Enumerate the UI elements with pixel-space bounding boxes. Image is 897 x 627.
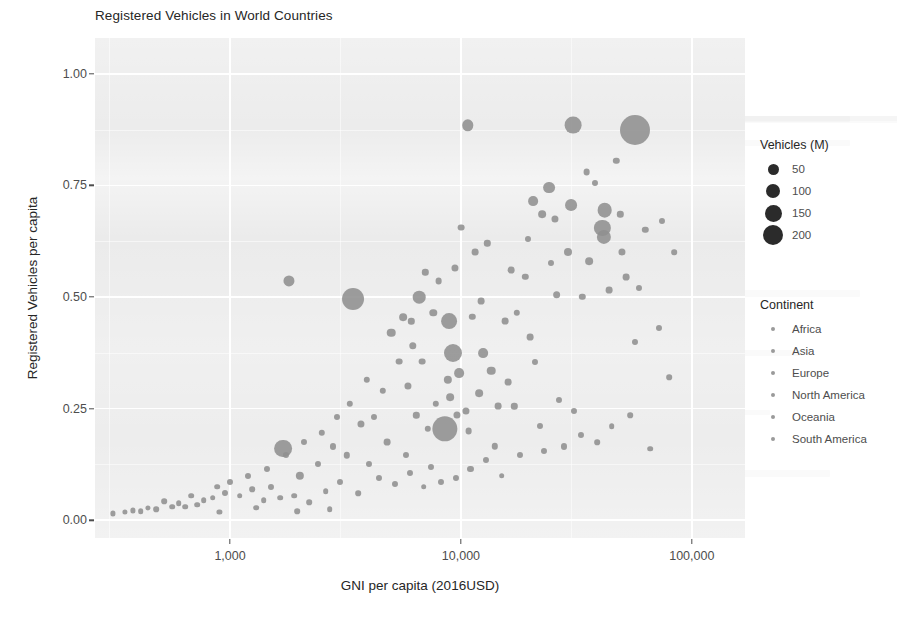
size-legend-dot (760, 184, 786, 198)
scatter-point (583, 169, 590, 176)
scatter-point (301, 439, 307, 445)
continent-legend-dot (760, 371, 786, 375)
scatter-point (306, 499, 312, 505)
x-tick-label: 1,000 (214, 549, 245, 563)
scatter-point (176, 500, 182, 506)
scatter-point (430, 309, 437, 316)
scatter-point (462, 407, 469, 414)
scatter-point (130, 508, 135, 513)
scatter-point (295, 471, 303, 479)
scatter-point (444, 375, 452, 383)
scatter-point (421, 484, 427, 490)
scatter-point (632, 339, 638, 345)
scatter-point (399, 313, 407, 321)
continent-legend-item: Oceania (760, 406, 867, 428)
scatter-point (342, 288, 364, 310)
scatter-point (183, 504, 189, 510)
scatter-point (261, 497, 267, 503)
scatter-point (543, 182, 555, 194)
continent-legend-item: Africa (760, 318, 867, 340)
scatter-point (169, 504, 175, 510)
scatter-point (538, 210, 546, 218)
scatter-point (384, 439, 391, 446)
gridline-x-major (460, 38, 462, 538)
scatter-point (508, 267, 515, 274)
scatter-point (371, 414, 377, 420)
scatter-point (514, 309, 520, 315)
scatter-point (268, 484, 274, 490)
continent-legend-label: Europe (792, 367, 829, 379)
scatter-point (553, 291, 561, 299)
panel-shading (95, 38, 745, 538)
scatter-point (495, 403, 502, 410)
scatter-point (609, 424, 615, 430)
scatter-point (475, 389, 483, 397)
scatter-point (659, 218, 665, 224)
scatter-point (491, 443, 497, 449)
scatter-point (619, 249, 626, 256)
continent-legend-items: AfricaAsiaEuropeNorth AmericaOceaniaSout… (760, 318, 867, 450)
continent-legend-label: Asia (792, 345, 814, 357)
scatter-point (363, 376, 369, 382)
scatter-point (564, 117, 581, 134)
scatter-point (444, 344, 462, 362)
gridline-x-minor (340, 38, 341, 538)
scatter-point (337, 479, 343, 485)
scatter-point (194, 502, 200, 508)
scatter-point (422, 269, 428, 275)
scatter-point (551, 215, 558, 222)
scatter-point (517, 452, 523, 458)
size-legend: Vehicles (M) 50100150200 (760, 138, 829, 246)
scatter-point (656, 325, 662, 331)
scatter-point (647, 446, 653, 452)
scatter-point (672, 249, 678, 255)
chart-title: Registered Vehicles in World Countries (95, 8, 333, 23)
scatter-point (578, 432, 584, 438)
gridline-x-major (691, 38, 693, 538)
scatter-point (264, 466, 270, 472)
scatter-point (627, 412, 633, 418)
y-tick-mark (89, 519, 94, 520)
scatter-point (162, 499, 168, 505)
y-tick-label: 0.00 (63, 513, 87, 527)
scatter-point (245, 472, 251, 478)
scatter-point (110, 511, 115, 516)
scatter-point (623, 273, 630, 280)
scatter-point (347, 401, 353, 407)
y-tick-mark (89, 296, 94, 297)
scatter-point (419, 358, 426, 365)
scatter-point (438, 479, 444, 485)
scatter-point (214, 484, 220, 490)
x-tick-mark (460, 539, 461, 544)
continent-legend-dot (760, 393, 786, 397)
scatter-point (478, 348, 488, 358)
continent-legend-item: North America (760, 384, 867, 406)
x-tick-label: 100,000 (669, 549, 714, 563)
scatter-point (441, 314, 457, 330)
y-tick-label: 1.00 (63, 67, 87, 81)
scatter-point (358, 421, 365, 428)
continent-legend-dot (760, 349, 786, 353)
y-tick-label: 0.50 (63, 290, 87, 304)
scatter-point (189, 493, 195, 499)
scatter-point (408, 318, 414, 324)
scatter-point (541, 448, 547, 454)
size-legend-item: 150 (760, 202, 829, 224)
x-tick-mark (691, 539, 692, 544)
scatter-point (636, 285, 642, 291)
scatter-point (484, 240, 490, 246)
scatter-point (319, 430, 325, 436)
scatter-point (407, 470, 413, 476)
scatter-point (403, 452, 409, 458)
size-legend-label: 100 (792, 185, 811, 197)
scatter-point (250, 486, 256, 492)
scatter-point (413, 291, 426, 304)
gridline-y-minor (95, 241, 745, 242)
scatter-point (667, 374, 673, 380)
scatter-point (409, 342, 416, 349)
size-legend-dot (760, 225, 786, 245)
scatter-point (380, 387, 386, 393)
continent-legend-dot (760, 437, 786, 441)
scatter-point (505, 378, 512, 385)
size-legend-item: 100 (760, 180, 829, 202)
